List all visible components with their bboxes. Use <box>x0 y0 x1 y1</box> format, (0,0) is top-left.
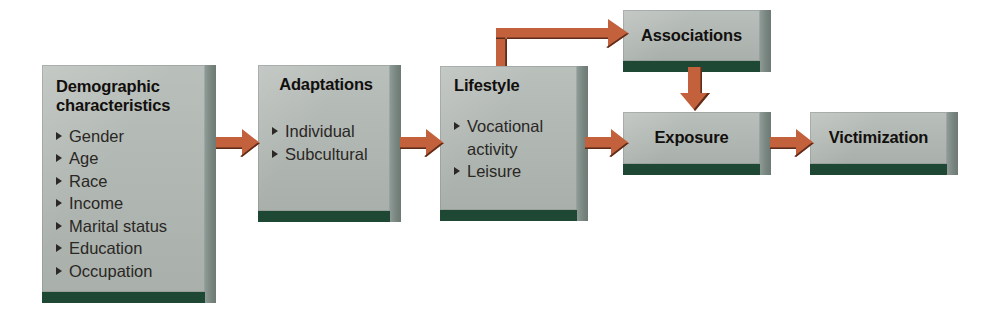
triangle-bullet-icon <box>454 167 460 175</box>
list-item: Subcultural <box>272 143 380 165</box>
list-item-label: Income <box>69 194 123 212</box>
triangle-bullet-icon <box>272 127 278 135</box>
box-bottom-shadow <box>623 164 771 175</box>
box-right-bevel <box>390 65 401 222</box>
list-item: Race <box>56 170 195 192</box>
node-title: Demographic characteristics <box>56 77 195 116</box>
node-lifestyle[interactable]: Lifestyle Vocational activity Leisure <box>440 66 588 221</box>
box-right-bevel <box>577 66 588 221</box>
node-title: Victimization <box>829 128 929 147</box>
box-right-bevel <box>947 112 958 175</box>
triangle-bullet-icon <box>56 222 62 230</box>
list-item: Income <box>56 192 195 214</box>
box-right-bevel <box>760 112 771 175</box>
triangle-bullet-icon <box>454 122 460 130</box>
box-right-bevel <box>205 65 216 303</box>
triangle-bullet-icon <box>56 177 62 185</box>
list-item-label: Individual <box>285 122 355 140</box>
node-title: Exposure <box>655 128 729 147</box>
list-item-label: Leisure <box>467 162 521 180</box>
triangle-bullet-icon <box>56 132 62 140</box>
list-item-label: Race <box>69 172 108 190</box>
node-title: Lifestyle <box>454 76 567 95</box>
box-bottom-shadow <box>810 164 958 175</box>
list-item: Education <box>56 237 195 259</box>
triangle-bullet-icon <box>56 267 62 275</box>
node-bullet-list: Vocational activity Leisure <box>454 115 567 182</box>
node-demographic-characteristics[interactable]: Demographic characteristics Gender Age R… <box>42 65 216 303</box>
triangle-bullet-icon <box>56 154 62 162</box>
list-item: Occupation <box>56 260 195 282</box>
list-item: Gender <box>56 125 195 147</box>
flow-diagram: Demographic characteristics Gender Age R… <box>0 0 1006 320</box>
list-item-label: Age <box>69 149 98 167</box>
node-bullet-list: Gender Age Race Income Marital status Ed… <box>56 125 195 282</box>
box-bottom-shadow <box>623 61 771 72</box>
list-item-label: Vocational activity <box>467 117 543 157</box>
box-bottom-shadow <box>42 292 216 303</box>
list-item: Leisure <box>454 160 567 182</box>
node-exposure[interactable]: Exposure <box>623 112 771 175</box>
node-victimization[interactable]: Victimization <box>810 112 958 175</box>
list-item-label: Education <box>69 239 142 257</box>
list-item-label: Marital status <box>69 217 167 235</box>
triangle-bullet-icon <box>272 150 278 158</box>
list-item: Age <box>56 147 195 169</box>
list-item-label: Gender <box>69 127 124 145</box>
list-item: Individual <box>272 120 380 142</box>
triangle-bullet-icon <box>56 199 62 207</box>
node-bullet-list: Individual Subcultural <box>272 120 380 165</box>
edge-associations-to-exposure <box>680 67 714 113</box>
list-item-label: Occupation <box>69 262 152 280</box>
node-associations[interactable]: Associations <box>623 10 771 72</box>
node-adaptations[interactable]: Adaptations Individual Subcultural <box>258 65 401 222</box>
list-item: Vocational activity <box>454 115 567 160</box>
box-right-bevel <box>760 10 771 72</box>
node-title: Associations <box>641 26 742 45</box>
list-item-label: Subcultural <box>285 145 368 163</box>
node-title: Adaptations <box>272 75 380 94</box>
triangle-bullet-icon <box>56 244 62 252</box>
box-bottom-shadow <box>440 210 588 221</box>
edge-demographic-to-adaptations <box>216 128 262 158</box>
list-item: Marital status <box>56 215 195 237</box>
box-bottom-shadow <box>258 211 401 222</box>
